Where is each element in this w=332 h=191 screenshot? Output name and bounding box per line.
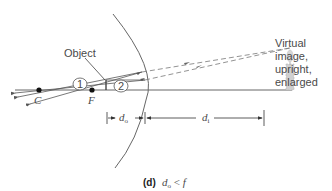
- image-label-line1: Virtual: [275, 37, 306, 49]
- center-of-curvature-point: [36, 87, 41, 92]
- image-label-line2: image,: [275, 50, 308, 62]
- dashed-arrow-mark: [184, 62, 190, 65]
- ray-extension-dashed: [142, 48, 290, 72]
- svg-text:do: do: [119, 111, 129, 125]
- svg-text:1: 1: [77, 78, 83, 90]
- object-leader-line: [85, 58, 105, 80]
- concave-mirror-diagram: 1 2 Object C F Virtual image, upright, e…: [0, 0, 332, 191]
- svg-text:di: di: [202, 111, 210, 125]
- svg-text:do < f: do < f: [162, 176, 188, 190]
- d-o-dimension: do: [107, 111, 145, 125]
- ray-1-label: 1: [73, 78, 87, 90]
- ray-extension-dashed: [145, 48, 290, 80]
- point-f-label: F: [87, 94, 95, 106]
- svg-text:2: 2: [118, 80, 124, 92]
- figure-caption: (d) do < f: [143, 176, 188, 190]
- point-c-label: C: [34, 94, 42, 106]
- focal-point: [89, 87, 94, 92]
- image-label-line3: upright,: [275, 63, 312, 75]
- svg-text:(d): (d): [143, 177, 156, 188]
- object-label: Object: [64, 47, 96, 59]
- ray-2-label: 2: [114, 80, 128, 92]
- d-i-dimension: di: [147, 110, 264, 126]
- image-label-line4: enlarged: [275, 76, 318, 88]
